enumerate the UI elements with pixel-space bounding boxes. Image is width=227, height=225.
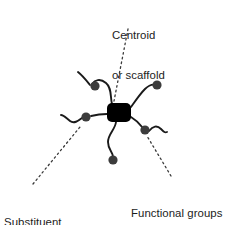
- arm-right-lower-tail: [149, 127, 167, 133]
- centroid-label-line1: Centroid: [112, 29, 165, 42]
- functional-groups-label-line1: Functional groups: [131, 207, 222, 220]
- leader-functional: [147, 136, 171, 176]
- arm-left: [91, 114, 107, 116]
- centroid-label-line2: or scaffold: [112, 69, 165, 82]
- arm-upper-left-tail: [78, 72, 90, 85]
- figure-root: Centroid or scaffold Substituent ‘arms’ …: [0, 0, 227, 225]
- functional-group-dot-bottom: [108, 155, 117, 164]
- functional-groups-label: Functional groups: [131, 181, 222, 225]
- substituent-label: Substituent ‘arms’: [4, 190, 62, 225]
- functional-group-dot-right-lower: [140, 125, 149, 134]
- centroid-label: Centroid or scaffold: [112, 3, 165, 109]
- functional-group-dot-left: [81, 112, 90, 121]
- leader-substituent: [33, 127, 80, 184]
- arm-left-tail: [61, 115, 82, 122]
- functional-group-dot-upper-left: [90, 81, 99, 90]
- substituent-label-line1: Substituent: [4, 216, 62, 225]
- arm-bottom: [108, 122, 116, 157]
- arm-right-lower: [131, 117, 143, 128]
